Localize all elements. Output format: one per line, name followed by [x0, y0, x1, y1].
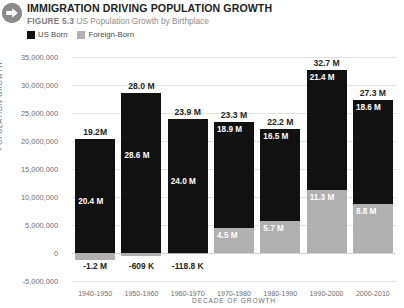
y-axis-tick-label: 30,000,000	[0, 81, 58, 90]
legend-item: Foreign-Born	[77, 30, 134, 39]
plot-area: 35,000,00030,000,00025,000,00020,000,000…	[72, 57, 396, 281]
bar-group[interactable]: 5.7 M16.5 M22.2 M1980-1990	[260, 57, 300, 281]
y-axis-tick-label: 15,000,000	[0, 165, 58, 174]
bar-total-label: 22.2 M	[252, 117, 308, 127]
bar-group[interactable]: 11.3 M21.4 M32.7 M1990-2000	[307, 57, 347, 281]
y-axis-tick-label: 25,000,000	[0, 109, 58, 118]
foreign-born-swatch	[77, 31, 85, 39]
bar-total-label: 32.7 M	[299, 58, 355, 68]
figure-caption-row: FIGURE 5.3 US Population Growth by Birth…	[27, 16, 209, 26]
bar-segment-us-born[interactable]: 16.5 M	[260, 129, 300, 221]
bar-segment-value-us-born: 21.4 M	[307, 73, 347, 82]
bar-segment-us-born[interactable]: 18.6 M	[353, 100, 393, 204]
bar-group[interactable]: 8.8 M18.6 M27.3 M2000-2010	[353, 57, 393, 281]
x-axis-title: DECADE OF GROWTH	[72, 297, 396, 304]
bar-segment-foreign-born-negative[interactable]	[168, 253, 208, 254]
bar-segment-value-us-born: 24.0 M	[168, 177, 208, 186]
bar-segment-us-born[interactable]: 24.0 M	[168, 119, 208, 253]
legend-label: US Born	[38, 30, 67, 39]
y-axis-tick-label: 10,000,000	[0, 193, 58, 202]
y-axis-tick-label: 0	[0, 249, 58, 258]
chart-legend: US BornForeign-Born	[27, 30, 139, 39]
figure-caption: US Population Growth by Birthplace	[77, 16, 209, 26]
legend-item: US Born	[27, 30, 67, 39]
us-born-swatch	[27, 31, 35, 39]
page-title: IMMIGRATION DRIVING POPULATION GROWTH	[27, 2, 272, 14]
figure-number: FIGURE 5.3	[27, 16, 74, 26]
bar-segment-us-born[interactable]: 18.9 M	[214, 122, 254, 228]
bar-total-label: 27.3 M	[345, 88, 401, 98]
y-axis-tick-label: -5,000,000	[0, 277, 58, 286]
bar-segment-value-foreign-born: 4.5 M	[214, 231, 254, 240]
bar-segment-us-born[interactable]: 21.4 M	[307, 70, 347, 190]
bar-segment-foreign-born-negative[interactable]	[121, 253, 161, 256]
bar-segment-us-born[interactable]: 28.6 M	[121, 93, 161, 253]
y-axis-tick-label: 5,000,000	[0, 221, 58, 230]
bar-segment-foreign-born-negative[interactable]	[75, 253, 115, 260]
bar-segment-foreign-born[interactable]: 8.8 M	[353, 204, 393, 253]
y-axis-tick-label: 35,000,000	[0, 53, 58, 62]
bar-segment-foreign-born[interactable]: 11.3 M	[307, 190, 347, 253]
bar-group[interactable]: 24.0 M-118.8 K23.9 M1960-1970	[168, 57, 208, 281]
bar-segment-value-foreign-born: 8.8 M	[353, 207, 393, 216]
bar-group[interactable]: 20.4 M-1.2 M19.2M1940-1950	[75, 57, 115, 281]
legend-label: Foreign-Born	[88, 30, 134, 39]
arrow-right-circle-icon	[2, 3, 22, 23]
bar-segment-value-foreign-born: 5.7 M	[260, 224, 300, 233]
gridline	[72, 281, 396, 282]
bar-segment-value-us-born: 20.4 M	[75, 197, 115, 206]
y-axis-tick-label: 20,000,000	[0, 137, 58, 146]
bar-segment-value-foreign-born: 11.3 M	[307, 193, 347, 202]
bar-segment-foreign-born[interactable]: 4.5 M	[214, 228, 254, 253]
bar-total-label: 19.2M	[67, 127, 123, 137]
bar-total-label: 28.0 M	[113, 81, 169, 91]
bar-segment-value-us-born: 16.5 M	[260, 132, 300, 141]
figure-header: IMMIGRATION DRIVING POPULATION GROWTH FI…	[0, 0, 404, 46]
bar-segment-foreign-born[interactable]: 5.7 M	[260, 221, 300, 253]
bar-segment-us-born[interactable]: 20.4 M	[75, 139, 115, 253]
bar-group[interactable]: 4.5 M18.9 M23.3 M1970-1980	[214, 57, 254, 281]
chart-canvas: POPULATION GROWTH 35,000,00030,000,00025…	[0, 46, 404, 308]
bar-segment-value-us-born: 18.6 M	[353, 103, 393, 112]
bar-group[interactable]: 28.6 M-609 K28.0 M1950-1960	[121, 57, 161, 281]
bar-segment-value-us-born: 28.6 M	[121, 151, 161, 160]
bar-negative-value-label: -118.8 K	[159, 261, 217, 271]
bar-segment-value-us-born: 18.9 M	[214, 125, 254, 134]
